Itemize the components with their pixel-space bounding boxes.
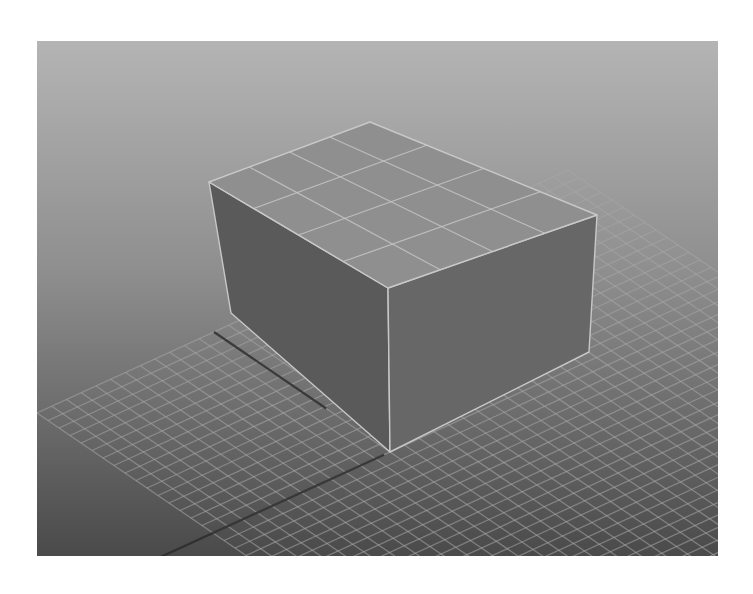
3d-viewport[interactable] <box>37 41 718 556</box>
viewport-canvas[interactable] <box>37 41 718 556</box>
